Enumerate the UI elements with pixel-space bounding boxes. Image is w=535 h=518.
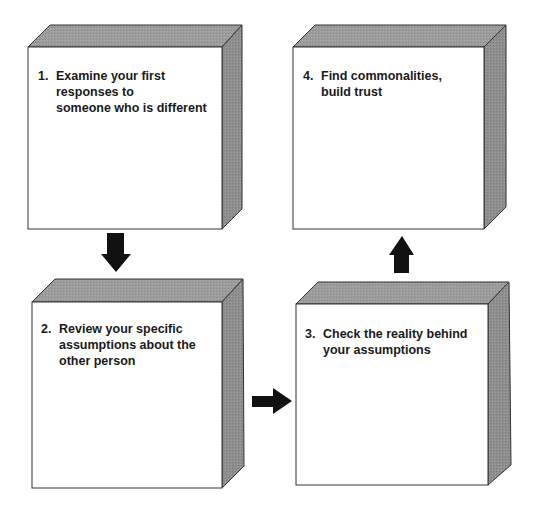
step-3-label: 3. Check the reality behind your assumpt… <box>305 326 467 358</box>
step-1-text: Examine your first responses to someone … <box>56 68 207 116</box>
step-4-number: 4. <box>303 68 321 100</box>
box-4-side-face <box>484 25 506 229</box>
box-4-top-face <box>293 25 506 47</box>
arrow-up-icon <box>389 236 414 273</box>
step-2-number: 2. <box>41 321 59 369</box>
step-2-label: 2. Review your specific assumptions abou… <box>41 321 196 369</box>
step-3-text: Check the reality behind your assumption… <box>323 326 467 358</box>
step-box-3 <box>296 282 511 485</box>
box-1-side-face <box>222 25 242 229</box>
arrow-down-icon <box>101 233 131 272</box>
step-box-4 <box>293 25 506 229</box>
step-box-1 <box>28 25 242 229</box>
step-1-number: 1. <box>38 68 56 116</box>
step-2-text: Review your specific assumptions about t… <box>59 321 196 369</box>
step-box-2 <box>32 279 244 488</box>
step-1-label: 1. Examine your first responses to someo… <box>38 68 207 116</box>
arrow-right-icon <box>252 388 292 414</box>
box-2-top-face <box>32 279 243 302</box>
step-3-number: 3. <box>305 326 323 358</box>
box-1-top-face <box>28 25 242 47</box>
step-4-text: Find commonalities, build trust <box>321 68 442 100</box>
box-2-side-face <box>222 279 244 488</box>
box-3-top-face <box>296 282 509 304</box>
step-4-label: 4. Find commonalities, build trust <box>303 68 442 100</box>
box-3-side-face <box>488 282 511 485</box>
